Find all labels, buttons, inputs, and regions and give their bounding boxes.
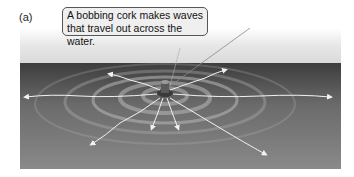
ripples-and-arrows — [20, 28, 341, 169]
panel-label: (a) — [19, 11, 32, 23]
callout-line-1: A bobbing cork makes waves — [67, 9, 203, 22]
concentric-ripples — [35, 64, 295, 144]
callout-box: A bobbing cork makes waves that travel o… — [62, 7, 208, 36]
callout-line-2: that travel out across the water. — [67, 22, 203, 48]
water-scene — [20, 28, 341, 169]
